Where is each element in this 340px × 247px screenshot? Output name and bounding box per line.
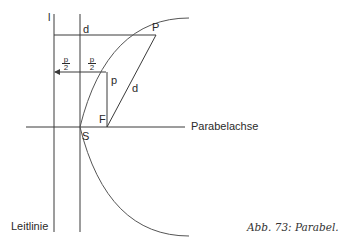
- parabola-diagram: [0, 0, 340, 247]
- vertex-S-label: S: [82, 131, 89, 142]
- focus-F-label: F: [99, 114, 106, 125]
- distance-d-label: d: [83, 24, 89, 35]
- axis-label: Parabelachse: [191, 121, 258, 132]
- parameter-p-label: p: [111, 75, 117, 86]
- focal-distance-d-label: d: [132, 83, 138, 94]
- point-P-label: P: [152, 22, 159, 33]
- directrix-label: Leitlinie: [11, 221, 48, 232]
- fraction-p-half-left: p 2: [62, 56, 70, 71]
- fraction-p-half-right: p 2: [88, 56, 96, 71]
- figure-caption: Abb. 73: Parabel.: [247, 221, 339, 233]
- directrix-letter-label: l: [48, 12, 50, 23]
